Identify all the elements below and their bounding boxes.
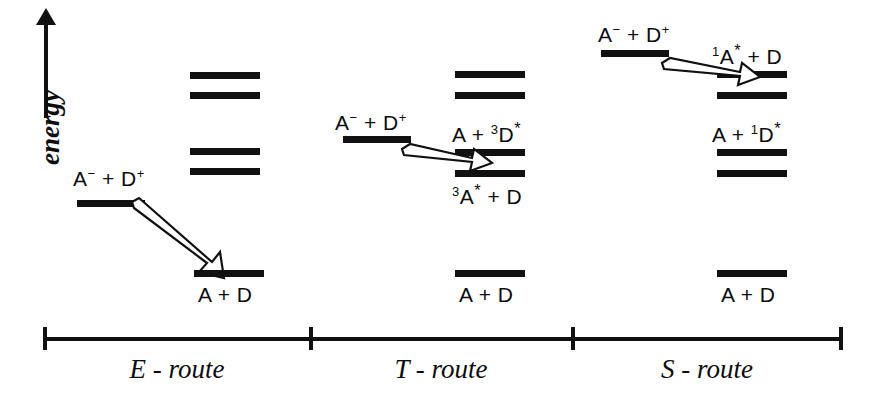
arrow-s-route xyxy=(660,55,770,95)
arrow-t-route xyxy=(400,141,500,181)
level-e-upper-1 xyxy=(190,168,260,175)
label-e-ion-pair: A− + D+ xyxy=(73,168,145,189)
route-tick-t-s xyxy=(571,327,575,350)
label-t-ion-pair: A− + D+ xyxy=(335,112,407,133)
label-s-ground: A + D xyxy=(721,284,775,305)
level-t-ground xyxy=(455,270,525,277)
energy-level-diagram: energy A− + D+ A + D A− + D+ A + 3D* 3A*… xyxy=(0,0,881,407)
level-s-upper-1 xyxy=(717,170,787,177)
level-e-upper-2 xyxy=(190,148,260,155)
route-tick-start xyxy=(43,327,47,350)
route-label-e: E - route xyxy=(44,354,310,385)
level-e-ground xyxy=(194,270,264,277)
route-label-t: T - route xyxy=(310,354,572,385)
level-e-upper-4 xyxy=(190,72,260,79)
level-t-upper-4 xyxy=(455,71,525,78)
label-s-ion-pair: A− + D+ xyxy=(598,24,670,45)
energy-axis-label: energy xyxy=(35,62,66,194)
route-tick-end xyxy=(839,327,843,350)
level-s-ground xyxy=(717,270,787,277)
label-t-triplet-acceptor: 3A* + D xyxy=(452,186,522,207)
route-baseline xyxy=(44,337,842,341)
label-t-ground: A + D xyxy=(459,284,513,305)
level-e-upper-3 xyxy=(190,92,260,99)
level-s-singlet-donor xyxy=(717,149,787,156)
label-s-singlet-donor: A + 1D* xyxy=(712,124,781,145)
level-s-ion-pair xyxy=(601,50,669,57)
route-tick-e-t xyxy=(309,327,313,350)
level-t-upper-3 xyxy=(455,92,525,99)
label-e-ground: A + D xyxy=(198,284,252,305)
route-label-s: S - route xyxy=(572,354,842,385)
